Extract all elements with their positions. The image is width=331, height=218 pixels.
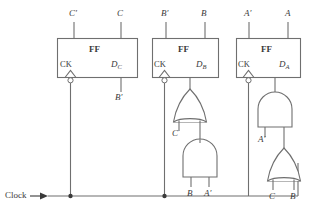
ff-a-d-label: DA [279, 59, 289, 70]
ff-a-q-label: A [285, 8, 291, 18]
clock-junction-ffb [162, 194, 166, 198]
ff-a-ck-label: CK [238, 59, 250, 69]
ff-a-ck-bubble [246, 78, 251, 83]
circuit-diagram: C′ C FF CK DC B′ B′ B FF CK DB A′ A FF C… [0, 0, 331, 218]
ff-c-input-label: B′ [115, 92, 122, 102]
ff-c-q-label: C [117, 8, 123, 18]
ff-b-d-label: DB [196, 59, 206, 70]
ff-a-name: FF [261, 44, 272, 54]
clock-junction-ffc [68, 194, 72, 198]
and-gate-a-body [258, 92, 292, 127]
circuit-schematic-svg [0, 0, 331, 218]
ff-c-ck-triangle [65, 71, 76, 78]
ff-c-d-label: DC [111, 59, 122, 70]
ff-b-ck-bubble [162, 78, 167, 83]
and-gate-a-input-aprime-label: A′ [258, 134, 265, 144]
and-gate-b-body [183, 139, 217, 177]
or-gate-b-input-c-label: C [172, 128, 178, 138]
ff-c-name: FF [89, 44, 100, 54]
or-gate-b-body [174, 89, 207, 122]
ff-a-qprime-label: A′ [244, 8, 251, 18]
ff-a-d-subscript: A [286, 63, 290, 70]
or-gate-a-input-c-label: C [269, 191, 275, 201]
ff-c-ck-bubble [68, 78, 73, 83]
ff-b-d-subscript: B [203, 63, 207, 70]
ff-c-ck-label: CK [60, 59, 72, 69]
ff-b-name: FF [178, 44, 189, 54]
ff-a-ck-triangle [243, 71, 254, 78]
and-gate-b-input-b-label: B [187, 188, 193, 198]
or-gate-a-body [268, 148, 301, 181]
ff-c-d-subscript: C [118, 63, 122, 70]
or-gate-a-input-b-label: B [290, 191, 296, 201]
and-gate-b-input-aprime-label: A′ [204, 188, 211, 198]
ff-c-qprime-label: C′ [69, 8, 77, 18]
ff-b-ck-label: CK [154, 59, 166, 69]
clock-arrow-head [40, 192, 48, 199]
ff-b-qprime-label: B′ [161, 8, 168, 18]
ff-b-ck-triangle [159, 71, 170, 78]
ff-b-q-label: B [201, 8, 207, 18]
clock-label: Clock [5, 190, 27, 200]
